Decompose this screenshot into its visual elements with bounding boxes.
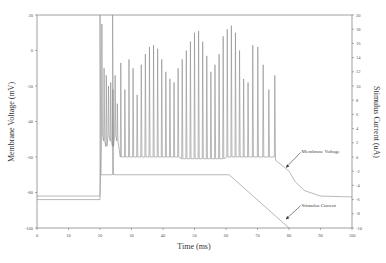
right-tick-label: 4	[356, 126, 359, 131]
right-tick-label: -4	[356, 183, 360, 188]
x-tick-label: 20	[98, 233, 103, 238]
right-tick-label: -6	[356, 197, 360, 202]
annotation-arrow	[288, 152, 301, 165]
left-tick-label: -80	[27, 190, 34, 195]
annotation-arrow	[288, 206, 301, 218]
left-tick-label: -100	[25, 226, 34, 231]
x-tick-label: 0	[36, 233, 39, 238]
x-axis-label: Time (ms)	[177, 242, 211, 251]
left-tick-label: -60	[27, 155, 34, 160]
right-tick-label: 20	[356, 13, 361, 18]
right-y-axis: 20181614121086420-2-4-6-8-10	[352, 13, 363, 231]
right-tick-label: 6	[356, 112, 359, 117]
chart-canvas: 200-20-40-60-80-100 20181614121086420-2-…	[0, 0, 386, 263]
right-tick-label: 12	[356, 69, 361, 74]
annotation-label: Membrane Voltage	[302, 149, 341, 154]
x-tick-label: 40	[161, 233, 166, 238]
x-tick-label: 30	[129, 233, 134, 238]
x-tick-label: 50	[192, 233, 197, 238]
x-tick-label: 90	[318, 233, 323, 238]
membrane-line	[37, 24, 352, 197]
left-tick-label: 0	[31, 48, 34, 53]
right-tick-label: 18	[356, 27, 361, 32]
annotation-label: Stimulus Current	[302, 203, 337, 208]
left-y-axis-label: Membrane Voltage (mV)	[7, 82, 16, 162]
x-tick-label: 60	[224, 233, 229, 238]
membrane-voltage-series	[37, 24, 352, 197]
annotations: Membrane VoltageStimulus Current	[286, 149, 341, 219]
right-tick-label: 16	[356, 41, 361, 46]
x-tick-label: 80	[287, 233, 292, 238]
left-tick-label: -40	[27, 119, 34, 124]
right-tick-label: 8	[356, 98, 359, 103]
left-tick-label: 20	[29, 13, 34, 18]
left-tick-label: -20	[27, 84, 34, 89]
x-tick-label: 70	[255, 233, 260, 238]
right-tick-label: 10	[356, 84, 361, 89]
x-tick-label: 10	[66, 233, 71, 238]
right-tick-label: -8	[356, 211, 360, 216]
left-y-axis: 200-20-40-60-80-100	[25, 13, 37, 231]
right-tick-label: 2	[356, 140, 358, 145]
right-y-axis-label: Stimulus Current (uA)	[372, 86, 381, 158]
right-tick-label: -10	[356, 226, 363, 231]
right-tick-label: 0	[356, 155, 359, 160]
x-tick-label: 100	[349, 233, 357, 238]
right-tick-label: 14	[356, 55, 361, 60]
right-tick-label: -2	[356, 169, 360, 174]
x-axis: 0102030405060708090100	[36, 228, 356, 238]
